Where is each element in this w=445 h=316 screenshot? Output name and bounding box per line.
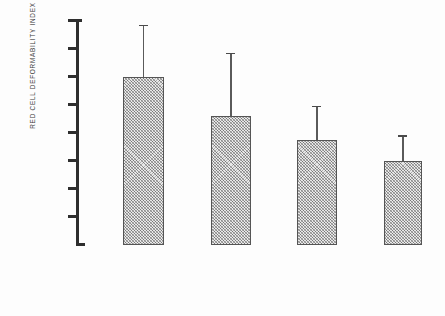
bar-rect (211, 116, 251, 245)
error-bar-cap (226, 53, 235, 55)
tick-mark (68, 131, 76, 134)
tick-mark (68, 215, 76, 218)
error-bar-cap (312, 106, 321, 108)
bar-rect (384, 161, 422, 245)
bar-rect (297, 140, 337, 245)
tick-mark (68, 103, 76, 106)
tick-mark (68, 75, 76, 78)
y-axis-title: RED CELL DEFORMABILITY INDEX (29, 0, 36, 146)
error-bar-line (316, 107, 317, 139)
error-bar-line (402, 137, 403, 161)
tick-mark (68, 187, 76, 190)
error-bar-cap (139, 25, 148, 27)
bar-chart: RED CELL DEFORMABILITY INDEX 0.8 0.7 0.6… (0, 0, 445, 316)
error-bar-cap (398, 135, 407, 137)
y-axis-line (76, 19, 79, 246)
error-bar-line (143, 26, 144, 76)
tick-mark (68, 159, 76, 162)
bar-rect (123, 77, 164, 245)
tick-mark (68, 47, 76, 50)
y-axis-bottom-foot (76, 243, 85, 246)
tick-mark (68, 19, 76, 22)
error-bar-line (230, 54, 231, 116)
